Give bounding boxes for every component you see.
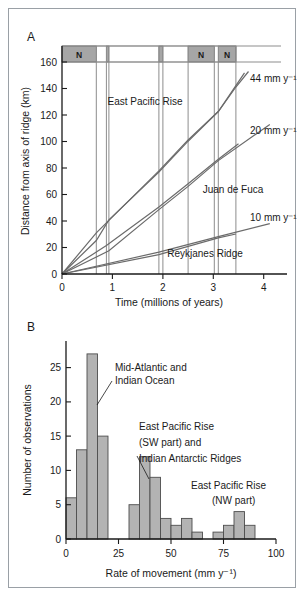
annotation-reykjanes-ridge: Reykjanes Ridge xyxy=(167,248,243,259)
annotation-epr-sw-line2: (SW part) and xyxy=(139,437,201,448)
panel-a-x-tick-labels: 0 1 2 3 4 xyxy=(59,282,267,293)
y-tick-label-80: 80 xyxy=(46,163,58,174)
panel-b-x-ticks xyxy=(66,539,276,544)
annotation-rate-44: 44 mm y⁻¹ xyxy=(250,73,297,84)
y-tick-label-140: 140 xyxy=(40,83,57,94)
panel-a-x-ticks xyxy=(62,274,264,279)
table-row xyxy=(66,498,77,539)
table-row xyxy=(150,477,161,539)
y-tick-label-5: 5 xyxy=(55,499,61,510)
panel-a-chart: A N N N xyxy=(9,9,297,309)
y-tick-label-10: 10 xyxy=(50,465,62,476)
y-tick-label-0: 0 xyxy=(55,534,61,545)
y-tick-label-0: 0 xyxy=(51,269,57,280)
y-tick-label-60: 60 xyxy=(46,189,58,200)
table-row xyxy=(129,505,140,539)
x-tick-label-0: 0 xyxy=(63,548,69,559)
annotation-mid-atlantic-line2: Indian Ocean xyxy=(115,375,175,386)
annotation-epr-nw-line2: (NW part) xyxy=(212,495,255,506)
polarity-label-n-1: N xyxy=(76,50,82,60)
table-row xyxy=(77,450,88,539)
x-tick-label-75: 75 xyxy=(218,548,230,559)
panel-b-y-tick-labels: 0 5 10 15 20 25 xyxy=(50,362,62,544)
table-row xyxy=(140,457,151,539)
figure-frame: A N N N xyxy=(8,8,296,588)
panel-b-x-tick-labels: 0 25 50 75 100 xyxy=(63,548,285,559)
annotation-east-pacific-rise: East Pacific Rise xyxy=(107,96,182,107)
annotation-epr-sw-line1: East Pacific Rise xyxy=(139,421,214,432)
panel-a-x-axis-title: Time (millions of years) xyxy=(115,296,223,308)
panel-a: A N N N xyxy=(9,9,297,309)
leader-mid-atlantic xyxy=(97,381,112,405)
annotation-rate-10: 10 mm y⁻¹ xyxy=(250,212,297,223)
panel-b: B xyxy=(9,309,297,589)
x-tick-label-3: 3 xyxy=(211,282,217,293)
panel-a-gridlines xyxy=(96,46,236,274)
panel-b-letter: B xyxy=(27,320,35,334)
panel-a-y-tick-labels: 0 20 40 60 80 100 120 140 160 xyxy=(40,57,57,280)
annotation-juan-de-fuca: Juan de Fuca xyxy=(203,184,264,195)
x-tick-label-4: 4 xyxy=(261,282,267,293)
annotation-rate-20: 20 mm y⁻¹ xyxy=(250,125,297,136)
y-tick-label-40: 40 xyxy=(46,216,58,227)
table-row xyxy=(224,525,235,539)
polarity-band-n-3 xyxy=(159,46,163,62)
x-tick-label-100: 100 xyxy=(268,548,285,559)
panel-b-x-axis-title: Rate of movement (mm y⁻¹) xyxy=(106,567,237,579)
annotation-epr-nw-line1: East Pacific Rise xyxy=(191,480,266,491)
table-row xyxy=(234,512,245,539)
y-tick-label-20: 20 xyxy=(50,396,62,407)
table-row xyxy=(182,518,193,539)
panel-a-y-ticks xyxy=(62,62,67,274)
panel-a-y-axis-title: Distance from axis of ridge (km) xyxy=(19,87,31,235)
y-tick-label-120: 120 xyxy=(40,110,57,121)
annotation-mid-atlantic-line1: Mid-Atlantic and xyxy=(115,362,187,373)
table-row xyxy=(213,532,224,539)
table-row xyxy=(192,532,203,539)
polarity-label-n-3: N xyxy=(224,50,230,60)
x-tick-label-25: 25 xyxy=(113,548,125,559)
table-row xyxy=(87,354,98,539)
table-row xyxy=(245,525,256,539)
annotation-epr-sw-line3: Indian Antarctic Ridges xyxy=(139,453,241,464)
panel-a-letter: A xyxy=(27,30,35,44)
table-row xyxy=(161,518,172,539)
table-row xyxy=(171,525,182,539)
polarity-label-n-2: N xyxy=(198,50,204,60)
y-tick-label-160: 160 xyxy=(40,57,57,68)
x-tick-label-50: 50 xyxy=(165,548,177,559)
y-tick-label-15: 15 xyxy=(50,431,62,442)
x-tick-label-1: 1 xyxy=(110,282,116,293)
x-tick-label-0: 0 xyxy=(59,282,65,293)
y-tick-label-25: 25 xyxy=(50,362,62,373)
y-tick-label-20: 20 xyxy=(46,242,58,253)
table-row xyxy=(98,436,109,539)
panel-b-chart: B xyxy=(9,309,297,589)
x-tick-label-2: 2 xyxy=(160,282,166,293)
panel-b-y-axis-title: Number of observations xyxy=(21,384,33,495)
y-tick-label-100: 100 xyxy=(40,136,57,147)
